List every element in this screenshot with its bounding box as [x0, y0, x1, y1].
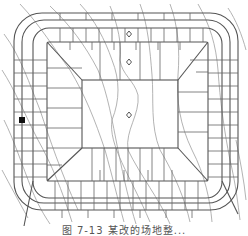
diamond-marker-icon	[127, 31, 132, 37]
figure-caption: 图 7-13 某改的场地整...	[0, 225, 248, 236]
inner-road-edge	[33, 28, 222, 198]
spot-elevation-markers	[127, 31, 132, 118]
black-square-marker-icon	[19, 117, 25, 123]
site-grading-diagram	[0, 0, 248, 236]
diamond-marker-icon	[127, 112, 132, 118]
diamond-marker-icon	[127, 59, 132, 65]
contour-lines	[2, 4, 246, 224]
